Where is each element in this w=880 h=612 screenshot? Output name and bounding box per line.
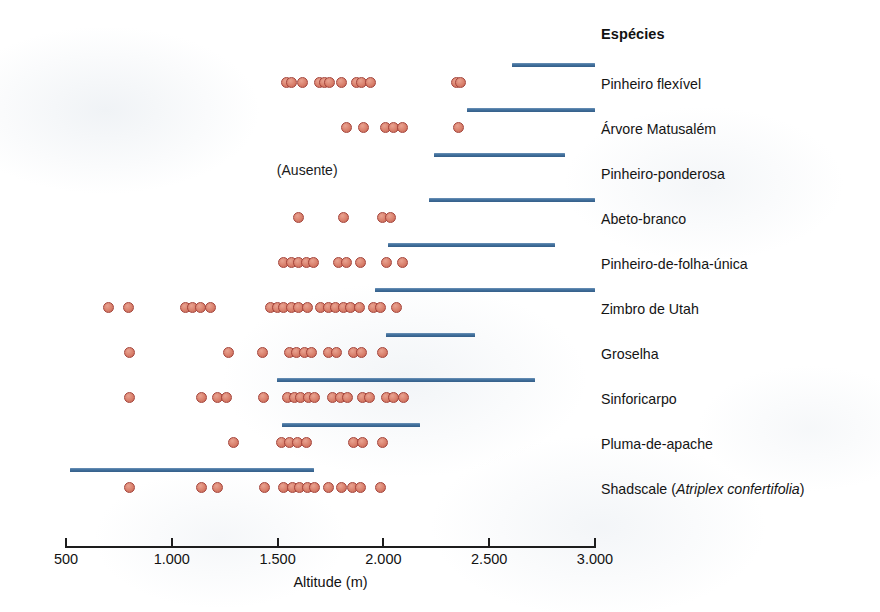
- record-dot: [302, 302, 313, 313]
- record-dot: [257, 347, 268, 358]
- record-dot: [308, 257, 319, 268]
- x-axis-tick: [277, 538, 279, 548]
- species-label: Pluma-de-apache: [601, 437, 713, 451]
- record-dot: [124, 392, 135, 403]
- record-dot: [293, 212, 304, 223]
- modern-range-bar: [434, 153, 565, 157]
- species-label: Abeto-branco: [601, 212, 686, 226]
- x-axis-tick-label: 2.000: [365, 551, 401, 567]
- modern-range-bar: [512, 63, 595, 67]
- record-dot: [354, 302, 365, 313]
- record-dot: [336, 482, 347, 493]
- x-axis-tick-label: 3.000: [577, 551, 613, 567]
- record-dot: [221, 392, 232, 403]
- species-label: Shadscale (Atriplex confertifolia): [601, 482, 804, 496]
- record-dot: [398, 392, 409, 403]
- record-dot: [356, 347, 367, 358]
- modern-range-bar: [386, 333, 476, 337]
- record-dot: [453, 122, 464, 133]
- record-dot: [377, 347, 388, 358]
- species-row: Sinforicarpo: [0, 370, 880, 415]
- species-column-header: Espécies: [601, 26, 665, 42]
- record-dot: [355, 257, 366, 268]
- altitude-distribution-chart: Espécies Pinheiro flexívelÁrvore Matusal…: [0, 0, 880, 612]
- record-dot: [205, 302, 216, 313]
- x-axis-tick: [594, 538, 596, 548]
- record-dot: [375, 302, 386, 313]
- species-label: Pinheiro-de-folha-única: [601, 257, 748, 271]
- absent-annotation: (Ausente): [277, 162, 338, 178]
- modern-range-bar: [429, 198, 595, 202]
- record-dot: [341, 122, 352, 133]
- record-dot: [124, 347, 135, 358]
- x-axis: 5001.0001.5002.0002.5003.000 Altitude (m…: [0, 538, 880, 608]
- record-dot: [124, 482, 135, 493]
- x-axis-tick-label: 1.500: [259, 551, 295, 567]
- record-dot: [196, 482, 207, 493]
- record-dot: [331, 347, 342, 358]
- record-dot: [355, 482, 366, 493]
- record-dot: [228, 437, 239, 448]
- record-dot: [103, 302, 114, 313]
- record-dot: [377, 437, 388, 448]
- species-label: Zimbro de Utah: [601, 302, 699, 316]
- x-axis-tick: [382, 538, 384, 548]
- x-axis-tick: [65, 538, 67, 548]
- species-row: Pinheiro-de-folha-única: [0, 235, 880, 280]
- record-dot: [364, 392, 375, 403]
- record-dot: [223, 347, 234, 358]
- modern-range-bar: [375, 288, 595, 292]
- record-dot: [357, 437, 368, 448]
- record-dot: [309, 392, 320, 403]
- species-row: Pinheiro flexível: [0, 55, 880, 100]
- record-dot: [385, 212, 396, 223]
- species-label: Árvore Matusalém: [601, 122, 716, 136]
- record-dot: [258, 392, 269, 403]
- species-row: Pluma-de-apache: [0, 415, 880, 460]
- record-dot: [338, 212, 349, 223]
- x-axis-title: Altitude (m): [293, 574, 367, 590]
- x-axis-tick: [171, 538, 173, 548]
- record-dot: [365, 77, 376, 88]
- record-dot: [391, 302, 402, 313]
- species-row: Groselha: [0, 325, 880, 370]
- record-dot: [196, 392, 207, 403]
- species-row: Abeto-branco: [0, 190, 880, 235]
- record-dot: [259, 482, 270, 493]
- record-dot: [301, 437, 312, 448]
- record-dot: [336, 77, 347, 88]
- species-row: Shadscale (Atriplex confertifolia): [0, 460, 880, 505]
- record-dot: [358, 122, 369, 133]
- record-dot: [397, 122, 408, 133]
- x-axis-tick: [488, 538, 490, 548]
- record-dot: [297, 77, 308, 88]
- record-dot: [323, 482, 334, 493]
- modern-range-bar: [388, 243, 555, 247]
- record-dot: [324, 77, 335, 88]
- x-axis-line: [66, 546, 595, 548]
- record-dot: [397, 257, 408, 268]
- species-row: Zimbro de Utah: [0, 280, 880, 325]
- x-axis-tick-label: 1.000: [154, 551, 190, 567]
- species-row: (Ausente)Pinheiro-ponderosa: [0, 145, 880, 190]
- record-dot: [309, 482, 320, 493]
- species-label: Sinforicarpo: [601, 392, 677, 406]
- modern-range-bar: [70, 468, 313, 472]
- species-label: Pinheiro flexível: [601, 77, 701, 91]
- record-dot: [212, 482, 223, 493]
- x-axis-tick-label: 500: [54, 551, 78, 567]
- record-dot: [123, 302, 134, 313]
- modern-range-bar: [277, 378, 535, 382]
- record-dot: [195, 302, 206, 313]
- species-label: Pinheiro-ponderosa: [601, 167, 725, 181]
- record-dot: [306, 347, 317, 358]
- record-dot: [341, 257, 352, 268]
- modern-range-bar: [282, 423, 421, 427]
- x-axis-tick-label: 2.500: [471, 551, 507, 567]
- record-dot: [455, 77, 466, 88]
- record-dot: [286, 77, 297, 88]
- record-dot: [342, 392, 353, 403]
- record-dot: [375, 482, 386, 493]
- modern-range-bar: [467, 108, 595, 112]
- species-row: Árvore Matusalém: [0, 100, 880, 145]
